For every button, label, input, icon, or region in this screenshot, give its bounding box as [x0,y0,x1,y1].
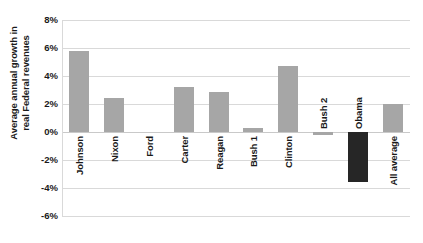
bar[interactable] [174,87,194,133]
y-axis-tick-label: -4% [28,183,58,193]
gridline [62,216,410,217]
bar-group: Nixon [97,20,132,216]
bar-group: Reagan [201,20,236,216]
bar-group: Johnson [62,20,97,216]
y-axis-tick-label: -2% [28,155,58,165]
bar-group: Bush 2 [306,20,341,216]
x-axis-category-label: Ford [143,136,154,157]
x-axis-category-label: Clinton [283,136,294,168]
y-axis-tick-label: 8% [28,15,58,25]
x-axis-category-label: Obama [352,97,363,129]
x-axis-category-label: Nixon [109,136,120,162]
bar[interactable] [209,92,229,132]
x-axis-category-label: Bush 1 [248,136,259,167]
bars-layer: JohnsonNixonFordCarterReaganBush 1Clinto… [62,20,410,216]
bar[interactable] [278,66,298,132]
bar[interactable] [69,51,89,132]
bar-chart: Average annual growth in real Federal re… [0,0,423,243]
bar[interactable] [313,132,333,135]
plot-area: JohnsonNixonFordCarterReaganBush 1Clinto… [62,20,410,216]
y-axis-tick-label: 2% [28,99,58,109]
bar-group: Bush 1 [236,20,271,216]
y-axis-tick-label: -6% [28,211,58,221]
bar[interactable] [243,128,263,132]
x-axis-category-label: Johnson [74,136,85,175]
x-axis-category-label: Bush 2 [317,98,328,129]
bar-group: All average [375,20,410,216]
y-axis-title-line-1: Average annual growth in [8,26,20,139]
x-axis-category-label: Reagan [213,136,224,170]
bar[interactable] [104,98,124,132]
bar-group: Obama [340,20,375,216]
x-axis-category-label: All average [387,136,398,186]
bar[interactable] [383,104,403,132]
bar-group: Clinton [271,20,306,216]
x-axis-category-label: Carter [178,136,189,163]
y-axis-tick-label: 6% [28,43,58,53]
y-axis-tick-label: 0% [28,127,58,137]
y-axis-tick-labels: 8%6%4%2%0%-2%-4%-6% [28,20,58,216]
y-axis-tick-label: 4% [28,71,58,81]
bar-group: Ford [132,20,167,216]
bar[interactable] [348,132,368,182]
bar-group: Carter [166,20,201,216]
